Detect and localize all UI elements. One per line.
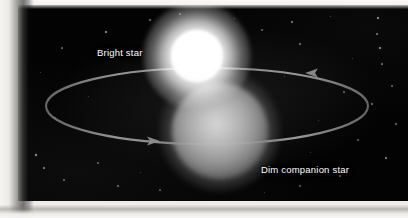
bright-star-label: Bright star — [97, 47, 143, 58]
bright-star — [171, 30, 223, 82]
binary-star-figure: Bright star Dim companion star — [0, 0, 408, 218]
dim-companion-star-label: Dim companion star — [261, 164, 349, 175]
